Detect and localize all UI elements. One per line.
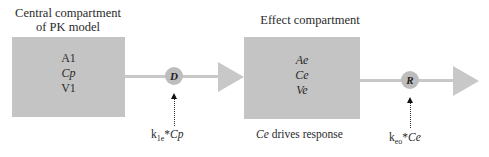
caption-text: drives response	[269, 128, 343, 140]
var-cp: Cp	[12, 66, 125, 81]
var-ve: Ve	[244, 83, 360, 98]
effect-compartment-box: Ae Ce Ve	[244, 37, 360, 119]
effect-compartment-title: Effect compartment	[240, 13, 380, 27]
d-rate-dotted-line	[174, 99, 175, 126]
var-a1: A1	[12, 51, 125, 66]
node-r: R	[401, 71, 419, 89]
caption-var: Ce	[256, 128, 269, 140]
var-v1: V1	[12, 81, 125, 96]
r-rate-dotted-line	[410, 103, 411, 128]
central-title-line1: Central compartment	[0, 6, 136, 20]
node-r-label: R	[406, 74, 413, 86]
effect-caption: Ce drives response	[256, 128, 343, 140]
node-d-label: D	[170, 70, 178, 82]
central-title-line2: of PK model	[0, 20, 136, 34]
d-rate-label: k1e*Cp	[151, 128, 183, 143]
var-ce: Ce	[244, 68, 360, 83]
node-d: D	[165, 67, 183, 85]
transfer-arrowhead-icon	[218, 62, 244, 92]
rate-var: Ce	[408, 131, 421, 143]
elimination-arrowhead-icon	[453, 66, 479, 96]
r-rate-label: keo*Ce	[389, 131, 421, 146]
central-compartment-title: Central compartment of PK model	[0, 6, 136, 34]
var-ae: Ae	[244, 53, 360, 68]
rate-var: Cp	[170, 128, 183, 140]
central-compartment-box: A1 Cp V1	[12, 37, 125, 117]
